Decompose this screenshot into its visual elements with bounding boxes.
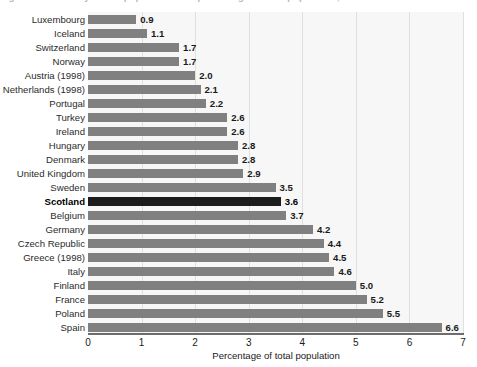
category-label: Netherlands (1998) — [3, 84, 85, 95]
bar — [88, 323, 442, 332]
bar-value-label: 3.7 — [290, 210, 303, 221]
bar-value-label: 6.6 — [446, 322, 459, 333]
bar-value-label: 3.5 — [280, 182, 293, 193]
category-label: Finland — [54, 280, 85, 291]
bar-value-label: 1.7 — [183, 56, 196, 67]
bar-row: Luxembourg0.9 — [0, 12, 477, 26]
bar-chart: Figure 1.3: Minority ethnic population a… — [0, 0, 477, 367]
x-tick-label: 7 — [448, 336, 477, 349]
bar-value-label: 2.6 — [231, 126, 244, 137]
bar — [88, 15, 136, 24]
category-label: Luxembourg — [32, 14, 85, 25]
bar-row: Finland5.0 — [0, 278, 477, 292]
category-label: Denmark — [46, 154, 85, 165]
category-label: Spain — [60, 322, 85, 333]
bar — [88, 281, 356, 290]
bar — [88, 29, 147, 38]
x-axis-label: Percentage of total population — [88, 350, 464, 361]
bar-row: United Kingdom2.9 — [0, 166, 477, 180]
bar-row: Denmark2.8 — [0, 152, 477, 166]
bar-row: Austria (1998)2.0 — [0, 68, 477, 82]
bar-value-label: 1.7 — [183, 42, 196, 53]
bar — [88, 211, 286, 220]
bar-value-label: 5.5 — [387, 308, 400, 319]
bar-value-label: 2.9 — [247, 168, 260, 179]
x-tick-label: 3 — [234, 336, 264, 349]
bar-row: Hungary2.8 — [0, 138, 477, 152]
category-label: United Kingdom — [17, 168, 85, 179]
category-label: Germany — [46, 224, 85, 235]
category-label: Greece (1998) — [23, 252, 85, 263]
bar — [88, 85, 201, 94]
bar-row: Ireland2.6 — [0, 124, 477, 138]
bar-value-label: 2.6 — [231, 112, 244, 123]
bar-value-label: 5.2 — [371, 294, 384, 305]
bar — [88, 197, 281, 206]
bar — [88, 57, 179, 66]
bar — [88, 239, 324, 248]
bar-row: Turkey2.6 — [0, 110, 477, 124]
bar-value-label: 2.0 — [199, 70, 212, 81]
bar — [88, 155, 238, 164]
category-label: Belgium — [50, 210, 85, 221]
bar-value-label: 1.1 — [151, 28, 164, 39]
category-label: Norway — [52, 56, 85, 67]
bar-value-label: 2.2 — [210, 98, 223, 109]
category-label: Turkey — [56, 112, 85, 123]
bar-value-label: 0.9 — [140, 14, 153, 25]
bar-row: Sweden3.5 — [0, 180, 477, 194]
bar-row: Spain6.6 — [0, 320, 477, 334]
bar-row: Belgium3.7 — [0, 208, 477, 222]
bar-row: Germany4.2 — [0, 222, 477, 236]
category-label: Ireland — [56, 126, 85, 137]
x-tick-label: 4 — [287, 336, 317, 349]
category-label: Austria (1998) — [25, 70, 85, 81]
bar-value-label: 2.1 — [205, 84, 218, 95]
bar-value-label: 2.8 — [242, 140, 255, 151]
bar — [88, 127, 227, 136]
x-tick-label: 0 — [73, 336, 103, 349]
bar — [88, 267, 334, 276]
bar-value-label: 2.8 — [242, 154, 255, 165]
bar-row: Switzerland1.7 — [0, 40, 477, 54]
bar-value-label: 5.0 — [360, 280, 373, 291]
bar — [88, 43, 179, 52]
x-tick-label: 1 — [127, 336, 157, 349]
bar-row: Netherlands (1998)2.1 — [0, 82, 477, 96]
bar-value-label: 4.5 — [333, 252, 346, 263]
bar — [88, 71, 195, 80]
bar-value-label: 3.6 — [285, 196, 298, 207]
bar-value-label: 4.4 — [328, 238, 341, 249]
bar-row: Norway1.7 — [0, 54, 477, 68]
bar — [88, 141, 238, 150]
bar-value-label: 4.2 — [317, 224, 330, 235]
category-label: Scotland — [44, 196, 85, 207]
bar — [88, 253, 329, 262]
bar — [88, 169, 243, 178]
bar-row: Greece (1998)4.5 — [0, 250, 477, 264]
x-tick-label: 6 — [394, 336, 424, 349]
bar-rows: Luxembourg0.9Iceland1.1Switzerland1.7Nor… — [0, 12, 477, 334]
bar-row: Scotland3.6 — [0, 194, 477, 208]
bar — [88, 309, 383, 318]
bar-row: Portugal2.2 — [0, 96, 477, 110]
bar — [88, 225, 313, 234]
category-label: Sweden — [50, 182, 85, 193]
x-tick-label: 5 — [341, 336, 371, 349]
chart-title-fragment: Figure 1.3: Minority ethnic population a… — [0, 0, 477, 3]
bar-row: Poland5.5 — [0, 306, 477, 320]
category-label: Czech Republic — [18, 238, 85, 249]
bar — [88, 99, 206, 108]
bar-row: Czech Republic4.4 — [0, 236, 477, 250]
category-label: Hungary — [49, 140, 85, 151]
bar — [88, 295, 367, 304]
bar-row: Italy4.6 — [0, 264, 477, 278]
x-tick-label: 2 — [180, 336, 210, 349]
x-axis-ticks: 01234567 — [0, 336, 477, 350]
category-label: Italy — [67, 266, 85, 277]
bar-row: France5.2 — [0, 292, 477, 306]
bar — [88, 113, 227, 122]
category-label: Portugal — [49, 98, 85, 109]
category-label: Switzerland — [35, 42, 85, 53]
category-label: Iceland — [54, 28, 85, 39]
